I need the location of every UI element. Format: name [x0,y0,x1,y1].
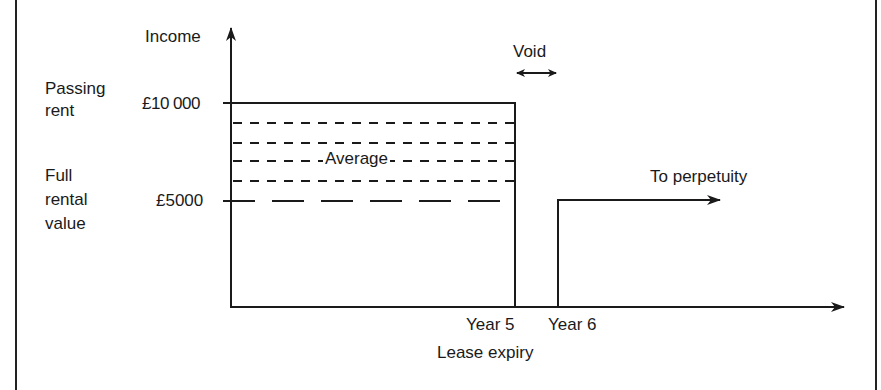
void-label: Void [513,41,546,63]
average-label: Average [323,148,390,170]
full-rental-value-label-line3: value [45,213,86,235]
x-axis-label: Lease expiry [437,342,533,364]
passing-rent-label-line2: rent [45,100,74,122]
perpetuity-label: To perpetuity [650,166,747,188]
lease-income-diagram [0,0,881,390]
full-rental-value-label-line2: rental [45,189,88,211]
x-tick-year6: Year 6 [548,314,597,336]
full-rental-value-label-line1: Full [45,165,72,187]
y-tick-high: £10 000 [142,93,200,115]
x-tick-year5: Year 5 [466,314,515,336]
perpetuity-line [558,200,720,308]
y-axis-label: Income [145,26,201,48]
y-tick-low: £5000 [156,190,203,212]
passing-rent-label-line1: Passing [45,78,105,100]
